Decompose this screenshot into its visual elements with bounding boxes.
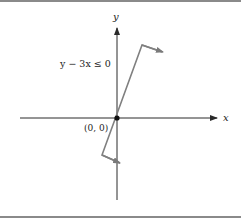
origin-label: (0, 0) bbox=[84, 123, 108, 133]
inequality-label: y − 3x ≤ 0 bbox=[59, 58, 111, 69]
diagram-frame: y x y − 3x ≤ 0 (0, 0) bbox=[0, 0, 241, 218]
boundary-line bbox=[102, 45, 162, 163]
x-axis-label: x bbox=[223, 112, 229, 123]
upper-direction-arrow-icon bbox=[142, 45, 163, 52]
inequality-plot: y x y − 3x ≤ 0 (0, 0) bbox=[0, 0, 241, 218]
frame-bottom-border bbox=[0, 216, 241, 218]
origin-point bbox=[114, 115, 119, 120]
y-axis-label: y bbox=[112, 11, 119, 22]
